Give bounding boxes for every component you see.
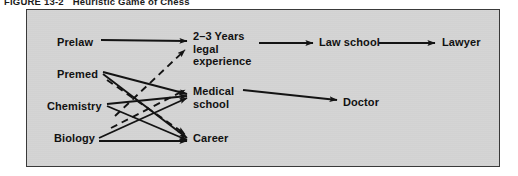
node-biology: Biology (54, 132, 95, 145)
edge-premed-legal-dashed (115, 50, 185, 116)
node-doctor: Doctor (343, 96, 379, 109)
node-lawyer: Lawyer (442, 36, 481, 49)
node-premed: Premed (57, 68, 98, 81)
figure-number: FIGURE 13-2 (4, 0, 64, 7)
diagram-panel: Prelaw Premed Chemistry Biology 2–3 Year… (26, 9, 500, 167)
node-legal-experience: 2–3 Years legal experience (193, 30, 251, 68)
node-law-school: Law school (319, 36, 380, 49)
node-career: Career (193, 132, 228, 145)
edge-prelaw-legal (101, 40, 187, 41)
figure-title: Heuristic Game of Chess (73, 0, 190, 7)
figure-caption: FIGURE 13-2Heuristic Game of Chess (4, 0, 190, 7)
node-prelaw: Prelaw (57, 36, 93, 49)
diagram-edges (27, 10, 500, 167)
node-chemistry: Chemistry (47, 100, 102, 113)
edge-biology-medical-dashed (111, 90, 185, 128)
figure-container: FIGURE 13-2Heuristic Game of Chess (0, 0, 518, 176)
node-medical-school: Medical school (193, 85, 234, 110)
edge-medical-doctor (243, 90, 337, 100)
